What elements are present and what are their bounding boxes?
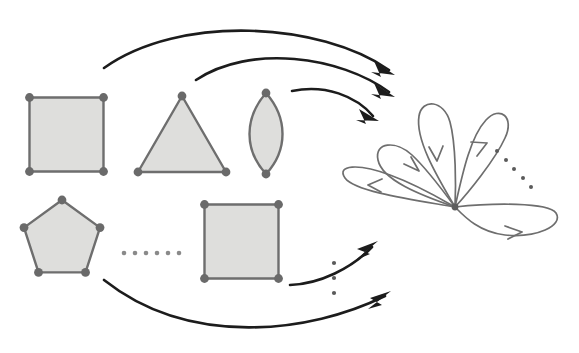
arrow-square-top-head <box>371 61 395 77</box>
arrow-triangle-top-head <box>371 83 395 99</box>
square-bottom-vertex-nw <box>200 200 209 209</box>
rose-loop-up <box>419 104 456 207</box>
rose-loop-up-right <box>455 113 508 207</box>
ellipsis-rose-loops <box>495 149 533 189</box>
ellipsis-dot <box>332 261 336 265</box>
ellipsis-dot <box>144 251 149 256</box>
shape-square-bottom <box>200 200 283 283</box>
diagram-svg <box>0 0 579 353</box>
pentagon-bottom-face <box>24 200 100 272</box>
pentagon-vertex-5 <box>20 223 29 232</box>
triangle-top-vertex-left <box>134 168 143 177</box>
ellipsis-dot <box>332 291 336 295</box>
square-top-face <box>30 98 104 172</box>
rose-loop-up-left <box>378 145 455 207</box>
square-top-vertex-se <box>99 167 108 176</box>
square-top-vertex-sw <box>25 167 34 176</box>
pentagon-vertex-2 <box>96 223 105 232</box>
shape-bigon-top <box>250 89 283 179</box>
arrow-square-top-curve <box>104 31 389 70</box>
ellipsis-dot <box>332 276 336 280</box>
ellipsis-dot <box>521 176 525 180</box>
square-bottom-vertex-ne <box>274 200 283 209</box>
arrow-bottom-family-head <box>368 291 391 309</box>
ellipsis-dot <box>133 251 138 256</box>
arrow-triangle-top-to-rose <box>196 58 395 99</box>
figure-canvas <box>0 0 579 353</box>
ellipsis-dot <box>529 185 533 189</box>
pentagon-vertex-1 <box>58 196 67 205</box>
shape-pentagon-bottom <box>20 196 105 277</box>
square-top-vertex-nw <box>25 93 34 102</box>
shape-triangle-top <box>134 92 231 177</box>
square-bottom-vertex-se <box>274 274 283 283</box>
arrow-bigon-top-to-rose <box>292 89 379 124</box>
ellipsis-dot <box>512 167 516 171</box>
ellipsis-dot <box>122 251 127 256</box>
arrow-square-bottom-curve <box>290 247 372 285</box>
ellipsis-dot <box>155 251 160 256</box>
rose-loop-up-arrowhead <box>429 146 443 161</box>
bigon-top-vertex-top <box>262 89 271 98</box>
square-bottom-face <box>205 205 279 279</box>
arrow-square-top-to-rose <box>104 31 395 77</box>
arrow-bottom-family-to-rose <box>104 280 391 327</box>
square-top-vertex-ne <box>99 93 108 102</box>
rose-center-vertex <box>452 204 459 211</box>
pentagon-vertex-3 <box>81 268 90 277</box>
arrow-triangle-top-curve <box>196 58 389 92</box>
ellipsis-between-bottom-shapes <box>122 251 182 256</box>
square-bottom-vertex-sw <box>200 274 209 283</box>
ellipsis-dot <box>177 251 182 256</box>
triangle-top-face <box>138 96 226 172</box>
rose-loop-right-arrowhead <box>505 226 522 239</box>
rose-loop-up-right-arrowhead <box>471 142 487 156</box>
bigon-top-vertex-bottom <box>262 170 271 179</box>
triangle-top-vertex-apex <box>178 92 187 101</box>
bigon-top-face <box>250 93 283 174</box>
ellipsis-between-bottom-arrows <box>332 261 336 295</box>
rose-graph <box>343 104 557 239</box>
triangle-top-vertex-right <box>222 168 231 177</box>
rose-loop-right <box>455 204 557 235</box>
ellipsis-dot <box>495 149 499 153</box>
arrow-bottom-family-curve <box>104 280 385 327</box>
ellipsis-dot <box>166 251 171 256</box>
ellipsis-dot <box>504 158 508 162</box>
pentagon-vertex-4 <box>34 268 43 277</box>
shape-square-top <box>25 93 108 176</box>
